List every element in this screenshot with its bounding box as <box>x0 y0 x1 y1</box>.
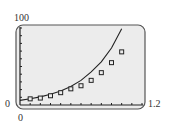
y-max-label: 100 <box>14 13 29 23</box>
data-point-marker <box>59 91 63 95</box>
screen-frame <box>16 25 145 109</box>
data-point-marker <box>69 87 73 91</box>
data-point-marker <box>120 50 124 54</box>
data-point-marker <box>99 71 103 75</box>
data-point-marker <box>28 97 32 101</box>
data-point-marker <box>38 96 42 100</box>
data-point-marker <box>79 84 83 88</box>
data-point-marker <box>89 78 93 82</box>
data-point-marker <box>49 94 53 98</box>
x-max-label: 1.2 <box>148 99 161 109</box>
data-point-marker <box>110 61 114 65</box>
x-min-label: 0 <box>18 113 23 123</box>
y-min-label: 0 <box>5 99 10 109</box>
